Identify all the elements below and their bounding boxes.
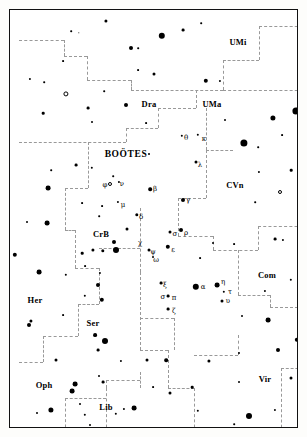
star-marker [221,300,224,303]
star-marker [169,392,172,395]
constellation-boundary-segment [140,350,168,351]
constellation-boundary-segment [194,388,195,428]
constellation-boundary-segment [75,268,99,269]
constellation-name-dra: Dra [142,100,157,109]
star-marker [112,240,116,244]
star-marker [79,403,81,405]
constellation-boundary-segment [174,318,175,350]
star-marker [78,32,79,33]
constellation-boundary-segment [140,272,141,350]
star-marker [29,319,32,322]
star-marker [164,358,168,362]
star-marker [84,265,86,267]
star-marker [70,389,75,394]
bayer-designation-label: μ [121,202,126,209]
bayer-designation-label: ζ [172,308,176,315]
star-marker [98,375,100,377]
bayer-designation-label: λ [198,162,202,169]
constellation-boundary-segment [64,56,87,57]
constellation-boundary-segment [238,295,270,296]
constellation-boundary-segment [64,40,65,56]
star-marker [281,134,283,136]
star-marker [115,413,117,415]
constellation-boundary-segment [140,318,174,319]
bayer-designation-label: η [221,279,225,286]
constellation-boundary-segment [19,40,64,41]
star-marker [223,291,225,293]
star-marker [102,381,105,384]
constellation-name-oph: Oph [36,381,53,390]
star-marker [75,164,78,167]
constellation-boundary-segment [213,250,258,251]
star-marker [274,238,277,241]
star-marker [126,228,129,231]
star-marker [101,249,104,252]
star-marker [43,81,45,83]
bayer-designation-label: ε [171,247,175,254]
constellation-boundary-segment [258,226,298,227]
star-marker [191,386,194,389]
constellation-boundary-segment [78,304,99,305]
constellation-boundary-segment [19,142,126,143]
star-marker [278,190,282,194]
star-marker [254,201,256,203]
bayer-designation-label: τ [228,289,232,296]
constellation-boundary-segment [206,150,233,151]
constellation-boundary-segment [140,372,141,388]
star-marker [166,245,170,249]
constellation-boundary-segment [196,90,197,108]
constellation-boundary-segment [206,108,207,150]
bayer-designation-label: ν [120,181,124,188]
star-marker [29,78,31,80]
star-marker [112,175,114,177]
star-marker [167,295,170,298]
star-field-plot: θκλφνβγμδχσρψεωξαησπτυζUMiDraUMaBOÖTESCV… [9,9,298,428]
star-marker [233,243,235,245]
constellation-boundary-segment [88,142,89,188]
star-marker [84,295,86,297]
star-marker [148,187,152,191]
bayer-designation-label: φ [103,182,108,189]
star-marker [270,115,275,120]
star-marker [81,252,84,255]
constellation-boundary-segment [270,307,298,308]
star-marker [62,314,64,316]
star-marker [159,33,165,39]
star-marker [200,22,202,24]
constellation-boundary-segment [259,26,260,60]
constellation-name-uma: UMa [202,100,221,109]
constellation-boundary-segment [131,90,223,91]
constellation-boundary-segment [281,368,282,428]
star-marker [104,19,107,22]
star-marker [132,406,137,411]
constellation-boundary-segment [131,80,132,90]
bayer-designation-label: ξ [163,282,167,289]
star-marker [193,284,199,290]
star-marker [137,47,139,49]
constellation-boundary-segment [238,250,239,295]
star-chart: θκλφνβγμδχσρψεωξαησπτυζUMiDraUMaBOÖTESCV… [0,0,307,437]
star-marker [48,407,53,412]
star-marker [65,274,67,276]
star-marker [274,409,276,411]
constellation-name-bootes: BOÖTES [105,150,148,160]
star-marker [238,381,240,383]
star-marker [224,119,226,121]
star-marker [258,171,260,173]
constellation-boundary-segment [158,108,159,128]
star-marker [102,338,108,344]
star-marker [124,103,128,107]
constellation-boundary-segment [206,150,207,198]
star-marker [212,242,214,244]
star-marker [233,423,235,425]
constellation-boundary-segment [87,56,88,80]
star-marker [91,248,94,251]
constellation-boundary-segment [281,368,298,369]
star-marker [215,283,220,288]
constellation-name-her: Her [28,296,43,305]
star-marker [129,46,133,50]
star-marker [101,205,103,207]
star-marker [290,377,293,380]
constellation-boundary-segment [106,380,107,388]
constellation-boundary-segment [65,398,106,399]
